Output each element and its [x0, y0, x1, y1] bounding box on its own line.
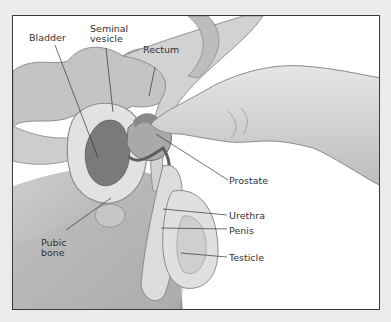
label-prostate: Prostate: [229, 176, 268, 186]
anatomy-illustration: [13, 16, 380, 310]
label-testicle: Testicle: [229, 253, 264, 263]
label-seminal-vesicle-line2: vesicle: [90, 34, 123, 44]
illustration-frame: Bladder Seminal vesicle Rectum Prostate …: [12, 15, 380, 310]
label-pubic-bone-line2: bone: [41, 248, 65, 258]
label-penis: Penis: [229, 226, 254, 236]
label-rectum: Rectum: [143, 45, 179, 55]
pubic-bone-shape: [95, 204, 125, 227]
label-urethra: Urethra: [229, 211, 265, 221]
label-bladder: Bladder: [29, 33, 66, 43]
